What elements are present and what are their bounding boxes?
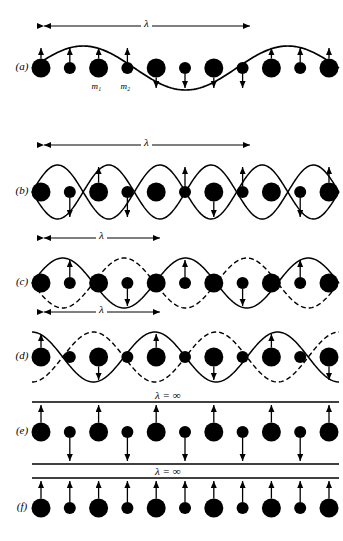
panel-label-e: (e)	[10, 424, 34, 436]
atom-small-m2-b-5	[179, 186, 191, 198]
atom-small-m2-d-9	[294, 351, 306, 363]
panel-label-d: (d)	[10, 349, 34, 361]
panel-label-b: (b)	[10, 184, 34, 196]
atom-large-m1-a-4	[147, 59, 166, 78]
atom-small-m2-e-5	[179, 426, 191, 438]
atom-large-m1-b-6	[204, 183, 223, 202]
atom-large-m1-c-6	[204, 274, 223, 293]
mass-label-m2: m₂	[120, 81, 130, 91]
atom-small-m2-f-3	[121, 502, 133, 514]
atom-large-m1-c-0	[32, 274, 51, 293]
atom-small-m2-d-7	[237, 351, 249, 363]
wavelength-label-a: λ	[141, 17, 152, 29]
atom-large-m1-f-2	[89, 499, 108, 518]
panel-label-a: (a)	[10, 60, 34, 72]
atom-small-m2-a-1	[64, 62, 76, 74]
atom-large-m1-b-10	[320, 183, 339, 202]
atom-large-m1-a-2	[89, 59, 108, 78]
atom-small-m2-c-5	[179, 277, 191, 289]
atom-small-m2-e-7	[237, 426, 249, 438]
atom-large-m1-d-0	[32, 348, 51, 367]
atom-large-m1-e-2	[89, 423, 108, 442]
wavelength-label-d: λ	[96, 303, 107, 315]
atom-large-m1-f-10	[320, 499, 339, 518]
atom-large-m1-f-4	[147, 499, 166, 518]
atom-small-m2-d-1	[64, 351, 76, 363]
wavelength-arrow-left	[44, 309, 51, 315]
atom-small-m2-b-1	[64, 186, 76, 198]
atom-small-m2-f-5	[179, 502, 191, 514]
atom-small-m2-e-3	[121, 426, 133, 438]
atom-small-m2-e-1	[64, 426, 76, 438]
atom-large-m1-e-10	[320, 423, 339, 442]
atom-large-m1-e-4	[147, 423, 166, 442]
atom-small-m2-a-7	[237, 62, 249, 74]
atom-large-m1-c-4	[147, 274, 166, 293]
atom-small-m2-b-3	[121, 186, 133, 198]
atom-small-m2-d-5	[179, 351, 191, 363]
atom-large-m1-b-4	[147, 183, 166, 202]
atom-small-m2-e-9	[294, 426, 306, 438]
panel-label-f: (f)	[10, 500, 34, 512]
panel-label-c: (c)	[10, 275, 34, 287]
atom-large-m1-e-0	[32, 423, 51, 442]
atom-large-m1-a-6	[204, 59, 223, 78]
atom-large-m1-d-6	[204, 348, 223, 367]
atom-small-m2-a-3	[121, 62, 133, 74]
wavelength-arrow-left	[44, 235, 51, 241]
atom-large-m1-f-8	[262, 499, 281, 518]
atom-small-m2-c-1	[64, 277, 76, 289]
atom-large-m1-d-4	[147, 348, 166, 367]
atom-small-m2-b-9	[294, 186, 306, 198]
atom-small-m2-c-7	[237, 277, 249, 289]
atom-small-m2-b-7	[237, 186, 249, 198]
lattice-canvas	[0, 0, 343, 541]
atom-large-m1-c-8	[262, 274, 281, 293]
atom-large-m1-a-10	[320, 59, 339, 78]
atom-large-m1-c-10	[320, 274, 339, 293]
atom-small-m2-f-9	[294, 502, 306, 514]
atom-large-m1-a-8	[262, 59, 281, 78]
atom-large-m1-d-8	[262, 348, 281, 367]
atom-small-m2-a-9	[294, 62, 306, 74]
atom-large-m1-e-8	[262, 423, 281, 442]
atom-small-m2-f-7	[237, 502, 249, 514]
atom-large-m1-b-0	[32, 183, 51, 202]
atom-large-m1-d-2	[89, 348, 108, 367]
wavelength-arrow-left	[44, 23, 51, 29]
atom-small-m2-c-9	[294, 277, 306, 289]
wavelength-label-c: λ	[96, 229, 107, 241]
atom-large-m1-d-10	[320, 348, 339, 367]
phonon-mode-figure: (a)λm₁m₂(b)λ(c)λ(d)λ(e)λ = ∞(f)λ = ∞	[0, 0, 343, 541]
atom-small-m2-f-1	[64, 502, 76, 514]
atom-large-m1-b-2	[89, 183, 108, 202]
atom-small-m2-c-3	[121, 277, 133, 289]
atom-small-m2-a-5	[179, 62, 191, 74]
atom-large-m1-c-2	[89, 274, 108, 293]
wavelength-label-b: λ	[141, 136, 152, 148]
wavelength-label-f: λ = ∞	[152, 465, 184, 477]
atom-small-m2-d-3	[121, 351, 133, 363]
atom-large-m1-b-8	[262, 183, 281, 202]
wavelength-label-e: λ = ∞	[152, 389, 184, 401]
atom-large-m1-e-6	[204, 423, 223, 442]
atom-large-m1-a-0	[32, 59, 51, 78]
wavelength-arrow-left	[44, 142, 51, 148]
mass-label-m1: m₁	[92, 81, 102, 91]
atom-large-m1-f-0	[32, 499, 51, 518]
atom-large-m1-f-6	[204, 499, 223, 518]
